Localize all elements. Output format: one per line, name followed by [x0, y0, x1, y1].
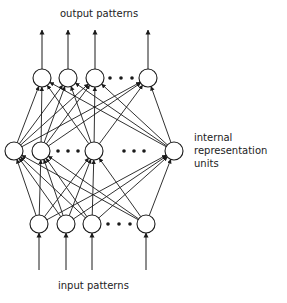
- connection-arrow: [102, 84, 168, 145]
- internal-representation-units-label: internal representation units: [194, 132, 267, 171]
- ellipsis-dot: [117, 222, 121, 226]
- hidden-unit: [85, 142, 103, 160]
- connection-arrow: [99, 158, 141, 216]
- output-unit: [59, 69, 77, 87]
- ellipsis-dot: [119, 76, 123, 80]
- connection-arrow: [149, 159, 171, 215]
- hidden-unit: [5, 142, 23, 160]
- output-unit: [33, 69, 51, 87]
- hidden-unit: [32, 142, 50, 160]
- connection-arrow: [151, 86, 171, 142]
- ellipsis-dot: [76, 149, 80, 153]
- ellipsis-dot: [132, 149, 136, 153]
- ellipsis-dot: [108, 76, 112, 80]
- input-unit: [137, 215, 155, 233]
- connection-arrow: [41, 87, 42, 142]
- ellipsis-dot: [56, 149, 60, 153]
- hidden-unit: [165, 142, 183, 160]
- hidden-label-line-1: internal: [194, 132, 267, 145]
- connection-arrow: [19, 158, 61, 216]
- input-patterns-label: input patterns: [58, 280, 129, 292]
- ellipsis-dot: [142, 149, 146, 153]
- ellipsis-dot: [66, 149, 70, 153]
- units: [5, 69, 183, 233]
- connection-arrow: [50, 82, 166, 146]
- ellipsis-dot: [122, 149, 126, 153]
- connection-arrow: [47, 155, 166, 219]
- input-unit: [30, 215, 48, 233]
- input-unit: [57, 215, 75, 233]
- connection-arrow: [21, 157, 86, 218]
- ellipsis-dot: [128, 222, 132, 226]
- output-unit: [86, 69, 104, 87]
- connection-arrow: [17, 86, 39, 142]
- connection-arrow: [94, 87, 95, 142]
- ellipsis-dot: [130, 76, 134, 80]
- connection-arrow: [71, 86, 91, 142]
- hidden-label-line-3: units: [194, 158, 267, 171]
- connection-arrow: [99, 157, 168, 218]
- hidden-label-line-2: representation: [194, 145, 267, 158]
- input-unit: [83, 215, 101, 233]
- ellipsis-dot: [106, 222, 110, 226]
- output-unit: [139, 69, 157, 87]
- output-patterns-label: output patterns: [60, 8, 138, 20]
